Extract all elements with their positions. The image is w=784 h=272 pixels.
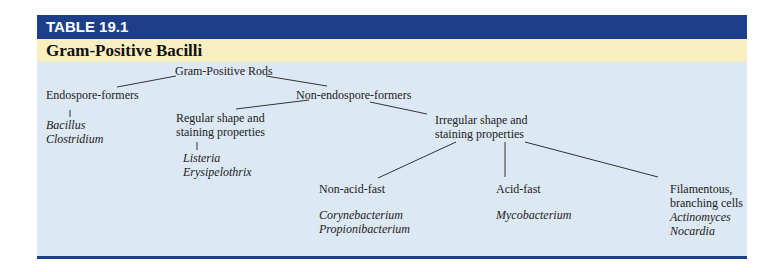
table-label: TABLE 19.1 xyxy=(37,15,747,39)
node-filamentous-line2: branching cells xyxy=(670,196,743,210)
node-endospore-formers: Endospore-formers xyxy=(46,88,139,102)
genus-corynebacterium: Corynebacterium xyxy=(319,208,403,222)
genus-mycobacterium: Mycobacterium xyxy=(496,208,571,222)
genus-listeria: Listeria xyxy=(183,151,220,165)
classification-tree: Gram-Positive Rods Endospore-formers Bac… xyxy=(37,62,747,256)
genus-nocardia: Nocardia xyxy=(670,224,715,238)
node-irregular-shape-line1: Irregular shape and xyxy=(435,113,528,127)
table-19-1: TABLE 19.1 Gram-Positive Bacilli Gram-Po… xyxy=(37,15,747,259)
table-title: Gram-Positive Bacilli xyxy=(37,39,747,62)
node-regular-shape-line1: Regular shape and xyxy=(176,111,265,125)
node-non-acid-fast: Non-acid-fast xyxy=(319,182,385,196)
genus-bacillus: Bacillus xyxy=(46,118,85,132)
bottom-rule xyxy=(37,256,747,259)
genus-erysipelothrix: Erysipelothrix xyxy=(183,165,252,179)
genus-clostridium: Clostridium xyxy=(46,132,103,146)
node-acid-fast: Acid-fast xyxy=(496,182,541,196)
node-regular-shape-line2: staining properties xyxy=(176,125,265,139)
genus-actinomyces: Actinomyces xyxy=(670,210,731,224)
node-irregular-shape-line2: staining properties xyxy=(435,127,524,141)
node-filamentous-line1: Filamentous, xyxy=(670,182,732,196)
node-non-endospore-formers: Non-endospore-formers xyxy=(296,88,411,102)
node-root: Gram-Positive Rods xyxy=(175,64,273,78)
genus-propionibacterium: Propionibacterium xyxy=(319,222,410,236)
